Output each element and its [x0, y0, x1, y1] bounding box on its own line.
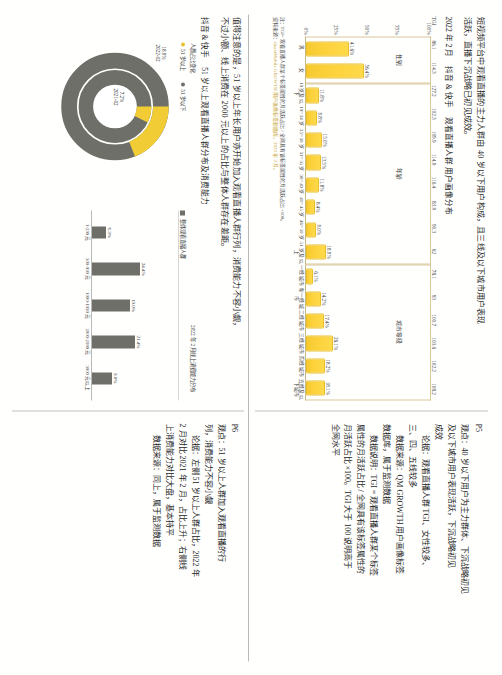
tgi-value: 109.9 — [431, 125, 437, 148]
p5-combo-chart: TGI 86.1 114.3 127.2 102.3 109.9 114.9 1… — [291, 16, 441, 400]
bar-group: 9.8% — [306, 106, 324, 128]
panel-gender: 性别 41.6% 56.4% — [305, 36, 431, 83]
bar-group: 17.4% — [306, 310, 331, 332]
p5-title-date: 2022 年 2 月 — [444, 16, 455, 57]
bar — [92, 299, 130, 311]
tgi-value: 78.1 — [431, 262, 437, 285]
bar-group: 18.9% — [306, 240, 333, 262]
p5-chart-title: 2022 年 2 月 抖音 & 快手 观看直播人群 用户画像分布 — [444, 16, 455, 400]
x-label: 五线及 以下城市 — [293, 377, 304, 400]
x-axis-labels: 男 女 19 岁及 以下 19~ 24 岁 25~ 30 岁 31~ 35 岁 … — [293, 16, 304, 400]
tgi-value: 108.2 — [431, 377, 437, 400]
x-label: 3000 元以上 — [85, 360, 90, 396]
donut-caption: 人群占比变化 — [189, 16, 197, 206]
tgi-value: 114.3 — [431, 56, 437, 79]
bar-value-label: 9.0% — [316, 224, 322, 235]
bar-group: 13.5% — [306, 151, 328, 173]
y-tick: 25% — [333, 24, 339, 34]
tgi-value: 102.2 — [431, 354, 437, 377]
bar-group: 6.1% — [306, 265, 320, 287]
bar — [92, 335, 135, 347]
p5-note-line: 数据来源：QM GROWTH 用户画像标签 — [392, 423, 405, 653]
bar-column: 21.4% — [92, 323, 141, 359]
source-label: 资料来源： — [273, 16, 278, 41]
panel-city-tier: 城市等级 6.1% 14.2% 17.4% 26.1% 18.2% 18.1% — [305, 264, 431, 400]
y-axis: 100% 75% 50% 25% 0% — [305, 16, 431, 36]
x-label: 四线 城市 — [293, 355, 304, 378]
bar-value-label: 8.4% — [315, 202, 321, 213]
legend-item-51-minus: 51 岁以下 — [179, 82, 187, 110]
bar — [306, 199, 315, 214]
donut-inner-value: 7.2% — [119, 88, 125, 105]
p6-headline-line1: 值得注意的是，51 岁以上年长用户亦开始加入观看直播人群行列，消费能力不容小觑， — [230, 16, 243, 400]
p6-headline: 值得注意的是，51 岁以上年长用户亦开始加入观看直播人群行列，消费能力不容小觑，… — [217, 16, 242, 400]
donut-inner-period: 2021-02 — [113, 88, 119, 105]
legend-item-51-plus: 51 岁以上 — [179, 42, 187, 70]
bar-group: 8.4% — [306, 196, 322, 218]
bar-plot-area: 6.3% 24.4% 19.0% 21.4% 9.8% — [91, 210, 179, 400]
tgi-value: 114.9 — [431, 148, 437, 171]
slide-p5: 短视频平台中观看直播的主力人群由 40 岁以下用户构成，且三线及以下城市用户表现… — [250, 14, 493, 661]
bar — [306, 154, 321, 169]
p6-headline-line2: 不过小额、线上消费在 2000 元以上的占比与整体人群存在差距。 — [217, 16, 230, 400]
bar — [306, 110, 317, 125]
p5-note-line: 成效 — [431, 423, 444, 653]
donut-svg — [59, 50, 171, 162]
p5-note-line: 观点：40 岁以下用户为主力群体、下沉战略初见 — [457, 423, 470, 653]
bar-group: 41.6% — [306, 37, 356, 59]
x-label: 新一线 城市 — [293, 286, 304, 309]
p6-note-line: 观点：51 岁以上人群加入观看直播的行 — [214, 423, 227, 653]
y-tick: 50% — [364, 24, 370, 34]
p5-headline-line2: 活跃，直播下沉战略已初见成效。 — [461, 16, 474, 400]
bar-value-label: 9.8% — [113, 373, 118, 383]
p5-title-brand: 抖音 & 快手 — [444, 66, 455, 108]
bar — [306, 380, 325, 395]
bar-value-label: 19.0% — [131, 299, 136, 312]
p5-title-rest: 观看直播人群 用户画像分布 — [444, 116, 455, 214]
bar — [306, 244, 326, 259]
bar — [306, 132, 322, 147]
bars-age: 11.8% 9.8% 15.0% 13.5% 11.8% 8.4% 9.0% 1… — [306, 84, 410, 263]
bar-value-label: 13.5% — [321, 155, 327, 168]
y-tick: 0% — [303, 27, 309, 34]
bar — [306, 313, 324, 328]
bar-x-axis: 1-299 元 300-999 元 1000-1999 元 2000-2999 … — [85, 210, 91, 400]
bar-column: 9.8% — [92, 360, 118, 396]
bar — [92, 226, 106, 238]
tgi-value: 93 — [431, 285, 437, 308]
bar-group: 56.4% — [306, 59, 371, 81]
x-label: 19~ 24 岁 — [293, 104, 304, 127]
bar-value-label: 11.8% — [319, 88, 325, 101]
bar-legend: 整体观看直播人群 — [180, 210, 187, 400]
panel-group: 性别 41.6% 56.4% 年龄 11.8% 9.8% — [305, 36, 431, 400]
x-label: 二线 城市 — [293, 309, 304, 332]
p6-title-brand: 抖音 & 快手 — [200, 16, 211, 58]
p5-note-line: 三、四、五线较多 — [405, 423, 418, 653]
bar-group: 9.0% — [306, 218, 323, 240]
bar-group: 18.2% — [306, 354, 332, 376]
bar — [306, 335, 333, 350]
x-label: 女 — [293, 59, 304, 82]
donut-outer-annotation: 18.9% 2022-02 — [155, 44, 168, 61]
p6-title-rest: 51 岁以上观看直播人群分布及消费能力 — [200, 67, 211, 205]
bar — [306, 291, 321, 306]
donut-legend: 51 岁以上 51 岁以下 — [179, 16, 187, 206]
bar — [92, 372, 112, 384]
legend-swatch-icon — [180, 210, 185, 215]
x-label: 51 岁及 以上 — [293, 241, 304, 264]
bar — [306, 222, 316, 237]
p6-charts: 人群占比变化 51 岁以上 51 岁以下 — [51, 16, 197, 400]
x-label: 25~ 30 岁 — [293, 127, 304, 150]
bar-value-label: 6.3% — [107, 227, 112, 237]
donut-chart-block: 人群占比变化 51 岁以上 51 岁以下 — [51, 16, 197, 206]
bar-value-label: 17.4% — [324, 314, 330, 327]
bar-value-label: 18.9% — [326, 245, 332, 258]
bar-value-label: 56.4% — [364, 64, 370, 77]
p6-note-line: 数据来源：同上，属于监测数据 — [149, 423, 162, 653]
x-label: 男 — [293, 36, 304, 59]
x-label: 41~ 45 岁 — [293, 195, 304, 218]
tgi-value: 90.3 — [431, 217, 437, 240]
x-label: 19 岁及 以下 — [293, 82, 304, 105]
bar — [306, 63, 364, 78]
p6-chart-title: 抖音 & 快手 51 岁以上观看直播人群分布及消费能力 — [200, 16, 211, 400]
